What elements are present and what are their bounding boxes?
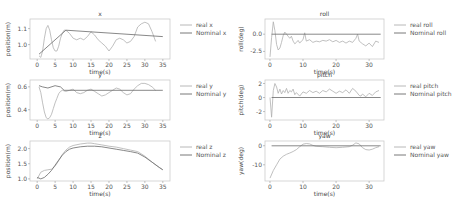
y-tick-label: 1.5 <box>17 160 27 167</box>
x-tick-label: 10 <box>299 122 307 129</box>
chart-roll: roll0102030-2.50.0time(s)roll(deg)real r… <box>237 10 446 75</box>
legend-label: real x <box>196 21 213 28</box>
y-tick-label: -2.5 <box>250 47 262 54</box>
legend-label: Nominal x <box>196 29 227 36</box>
legend-label: real roll <box>410 21 433 28</box>
y-tick-label: 0.0 <box>252 30 262 37</box>
y-tick-label: 0.6 <box>17 83 27 90</box>
x-tick-label: 0 <box>268 61 272 68</box>
legend: real pitchNominal pitch <box>394 82 452 98</box>
series-nominal-line <box>37 146 163 179</box>
y-axis-label: position(m) <box>4 83 12 117</box>
x-tick-label: 5 <box>53 122 57 129</box>
legend: real zNominal z <box>180 143 226 158</box>
chart-z: z051015202530351.01.52.0time(s)position(… <box>4 132 226 197</box>
y-tick-label: 0 <box>258 94 262 101</box>
x-tick-label: 25 <box>123 61 131 68</box>
x-tick-label: 30 <box>365 122 373 129</box>
legend-label: real y <box>196 82 213 90</box>
chart-title: y <box>98 71 102 79</box>
legend: real yNominal y <box>180 82 227 98</box>
chart-x: x051015202530351.01.1time(s)position(m)r… <box>4 10 227 75</box>
x-tick-label: 35 <box>159 122 167 129</box>
legend-label: Nominal y <box>196 90 227 98</box>
legend: real xNominal x <box>180 21 227 36</box>
x-tick-label: 10 <box>69 122 77 129</box>
legend: real rollNominal roll <box>394 21 446 36</box>
y-tick-label: 2 <box>258 80 262 87</box>
series-nominal-line <box>39 86 163 91</box>
series-real-line <box>37 143 163 179</box>
legend-label: real yaw <box>410 143 436 151</box>
y-tick-label: -2 <box>256 108 262 115</box>
x-tick-label: 5 <box>53 183 57 190</box>
y-tick-label: 1.1 <box>17 25 27 32</box>
legend: real yawNominal yaw <box>394 143 449 159</box>
x-tick-label: 30 <box>365 183 373 190</box>
x-tick-label: 35 <box>159 61 167 68</box>
x-tick-label: 10 <box>69 183 77 190</box>
x-tick-label: 0 <box>35 122 39 129</box>
x-tick-label: 15 <box>87 122 95 129</box>
x-tick-label: 10 <box>69 61 77 68</box>
series-real-line <box>270 143 379 178</box>
legend-label: Nominal z <box>196 151 226 158</box>
x-tick-label: 35 <box>159 183 167 190</box>
x-tick-label: 0 <box>268 183 272 190</box>
x-tick-label: 20 <box>105 183 113 190</box>
y-axis-label: yaw(deg) <box>237 147 245 175</box>
x-tick-label: 10 <box>299 61 307 68</box>
axes-frame <box>265 80 384 120</box>
x-tick-label: 15 <box>87 183 95 190</box>
figure-canvas: x051015202530351.01.1time(s)position(m)r… <box>0 0 455 200</box>
series-real-line <box>39 22 156 57</box>
x-tick-label: 20 <box>105 122 113 129</box>
series-real-line <box>270 22 379 57</box>
x-tick-label: 0 <box>35 61 39 68</box>
x-tick-label: 30 <box>365 61 373 68</box>
legend-label: real pitch <box>410 82 438 90</box>
x-tick-label: 20 <box>332 122 340 129</box>
x-tick-label: 20 <box>332 61 340 68</box>
x-tick-label: 20 <box>332 183 340 190</box>
x-tick-label: 10 <box>299 183 307 190</box>
x-tick-label: 0 <box>268 122 272 129</box>
axes-frame <box>265 19 384 59</box>
x-tick-label: 0 <box>35 183 39 190</box>
y-tick-label: -10 <box>252 161 262 168</box>
x-axis-label: time(s) <box>89 190 110 197</box>
chart-pitch: pitch0102030-202time(s)pitch(deg)real pi… <box>237 71 452 136</box>
series-real-line <box>39 83 156 119</box>
x-tick-label: 5 <box>53 61 57 68</box>
x-tick-label: 30 <box>141 183 149 190</box>
y-tick-label: 1.0 <box>17 41 27 48</box>
legend-label: Nominal roll <box>410 29 446 36</box>
y-axis-label: position(m) <box>4 22 12 56</box>
x-tick-label: 25 <box>123 122 131 129</box>
legend-label: Nominal pitch <box>410 90 452 98</box>
y-tick-label: 0.4 <box>17 106 27 113</box>
y-axis-label: position(m) <box>4 144 12 178</box>
x-tick-label: 30 <box>141 122 149 129</box>
chart-title: pitch <box>317 71 332 79</box>
x-tick-label: 15 <box>87 61 95 68</box>
y-axis-label: roll(deg) <box>237 26 245 51</box>
y-tick-label: 2.0 <box>17 145 27 152</box>
y-axis-label: pitch(deg) <box>237 85 245 116</box>
x-tick-label: 25 <box>123 183 131 190</box>
chart-title: x <box>98 10 102 17</box>
x-tick-label: 30 <box>141 61 149 68</box>
chart-y: y051015202530350.40.6time(s)position(m)r… <box>4 71 227 136</box>
chart-title: roll <box>320 10 330 17</box>
chart-title: yaw <box>318 132 330 140</box>
chart-title: z <box>98 132 101 139</box>
legend-label: real z <box>196 143 212 150</box>
axes-frame <box>30 80 170 120</box>
legend-label: Nominal yaw <box>410 151 449 159</box>
x-axis-label: time(s) <box>314 190 335 197</box>
y-tick-label: 1.0 <box>17 175 27 182</box>
series-real-line <box>270 84 379 118</box>
chart-yaw: yaw0102030-100time(s)yaw(deg)real yawNom… <box>237 132 449 197</box>
y-tick-label: 0 <box>258 142 262 149</box>
x-tick-label: 20 <box>105 61 113 68</box>
